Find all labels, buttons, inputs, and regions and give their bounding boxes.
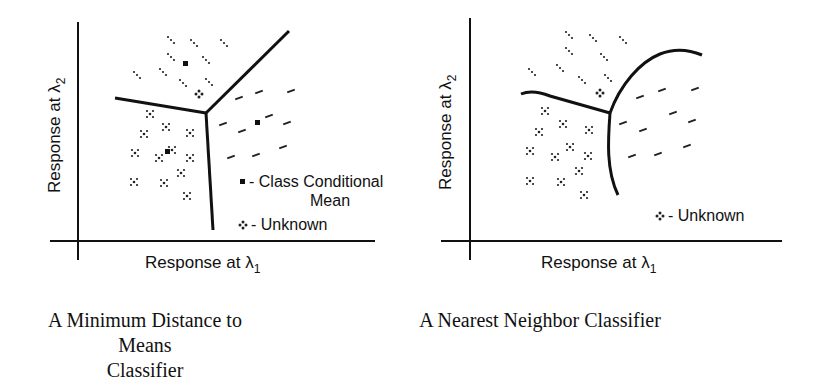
legend-mean-label-2: Mean (310, 192, 350, 209)
y-axis-label: Response at λ2 (45, 77, 68, 193)
x-axis-label: Response at λ1 (541, 253, 657, 276)
y-axis-label: Response at λ2 (436, 74, 459, 190)
unknown-marker-icon (656, 212, 665, 221)
caption-line-2: Classifier (20, 358, 270, 383)
class-cross-points (130, 110, 194, 200)
legend-unknown-label: - Unknown (668, 207, 744, 224)
class-cross-points (526, 107, 593, 199)
class-diagonal-points (133, 36, 228, 87)
caption-nearest-neighbor: A Nearest Neighbor Classifier (280, 308, 800, 333)
caption-line-1: A Minimum Distance to Means (20, 308, 270, 358)
unknown-marker-icon (239, 221, 248, 230)
caption-line-1: A Nearest Neighbor Classifier (280, 308, 800, 333)
unknown-point (596, 89, 605, 98)
x-axis-label: Response at λ1 (145, 253, 261, 276)
panel-min-distance: - Class Conditional Mean - Unknown Respo… (45, 22, 383, 276)
caption-min-distance: A Minimum Distance to Means Classifier (20, 308, 270, 383)
class-dash-points (619, 87, 699, 159)
legend: - Class Conditional Mean - Unknown (239, 173, 384, 233)
decision-boundaries (521, 50, 702, 195)
class-diagonal-points (528, 31, 627, 84)
panel-nearest-neighbor: - Unknown Response at λ1 Response at λ2 (436, 18, 782, 276)
legend-unknown-label: - Unknown (251, 216, 327, 233)
legend: - Unknown (656, 207, 745, 224)
mean-marker-icon (240, 179, 245, 184)
unknown-point (195, 90, 204, 99)
legend-mean-label: - Class Conditional (249, 173, 383, 190)
